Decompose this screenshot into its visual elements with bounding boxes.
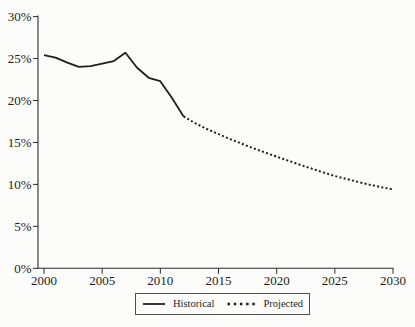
legend-projected-line-sample	[226, 301, 256, 307]
x-tick-label: 2030	[380, 273, 406, 288]
projected-series-line	[184, 116, 393, 189]
legend-projected-label: Projected	[263, 299, 303, 310]
chart-plot-area: 0%5%10%15%20%25%30%200020052010201520202…	[0, 0, 415, 327]
y-tick-label: 10%	[8, 177, 32, 192]
legend-historical-label: Historical	[173, 299, 214, 310]
y-tick-label: 5%	[14, 219, 32, 234]
x-tick-label: 2015	[206, 273, 232, 288]
x-tick-label: 2020	[264, 273, 290, 288]
y-tick-label: 0%	[14, 261, 32, 276]
historical-series-line	[44, 53, 184, 117]
y-tick-label: 25%	[8, 51, 32, 66]
x-tick-label: 2025	[322, 273, 348, 288]
y-tick-label: 30%	[8, 9, 32, 24]
y-tick-label: 15%	[8, 135, 32, 150]
legend: Historical Projected	[135, 293, 310, 315]
x-tick-label: 2010	[147, 273, 173, 288]
x-tick-label: 2005	[89, 273, 115, 288]
x-tick-label: 2000	[31, 273, 57, 288]
line-chart-figure: 0%5%10%15%20%25%30%200020052010201520202…	[0, 0, 415, 327]
y-tick-label: 20%	[8, 93, 32, 108]
legend-historical-line-sample	[142, 301, 166, 307]
